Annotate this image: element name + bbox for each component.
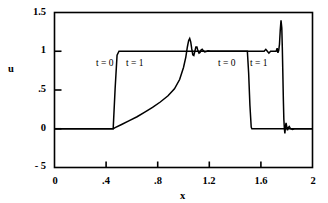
data-series-layer: [55, 20, 313, 133]
plot-frame: [55, 13, 313, 168]
ytick-label-0.5: .5: [8, 84, 46, 95]
data-series-0: [55, 51, 313, 129]
x-axis-title: x: [180, 191, 185, 202]
annotation-t0-left: t = 0: [96, 59, 114, 69]
ytick-label-0: 0: [8, 123, 46, 134]
ytick-label-minus-0.5: - 5: [8, 161, 46, 172]
chart-figure: 1.5 1 .5 0 - 5 u 0 .4 .8 1.2 1.6 2 x t =…: [0, 0, 328, 203]
data-series-1: [55, 20, 313, 133]
plot-canvas: [0, 0, 328, 203]
xtick-label-0.4: .4: [90, 176, 122, 187]
xtick-label-1.6: 1.6: [245, 176, 277, 187]
annotation-t1-right: t = 1: [250, 59, 268, 69]
xtick-label-0: 0: [39, 176, 71, 187]
axis-ticks: [55, 51, 261, 167]
xtick-label-0.8: .8: [142, 176, 174, 187]
annotation-t1-left: t = 1: [126, 59, 144, 69]
ytick-label-1: 1: [8, 45, 46, 56]
ytick-label-1.5: 1.5: [8, 7, 46, 18]
y-axis-title: u: [8, 64, 14, 75]
xtick-label-1.2: 1.2: [193, 176, 225, 187]
xtick-label-2: 2: [297, 176, 328, 187]
annotation-t0-right: t = 0: [218, 59, 236, 69]
